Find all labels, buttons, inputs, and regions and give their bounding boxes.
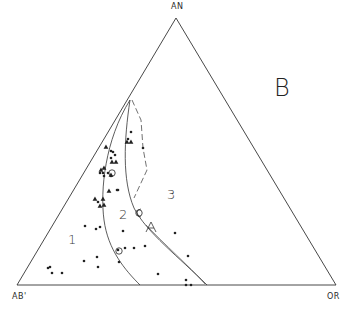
boundary-glyphs — [137, 209, 156, 232]
data-point-dot — [185, 284, 188, 287]
data-point-dot — [133, 247, 136, 250]
data-point-dot — [187, 255, 190, 258]
vertex-label-or: OR — [327, 293, 340, 301]
data-triangles — [93, 139, 134, 207]
field-label-3: 3 — [167, 188, 175, 201]
data-point-dot — [61, 272, 64, 275]
data-point-dot — [96, 256, 99, 259]
data-point-dot — [99, 226, 102, 229]
data-point-dot — [97, 201, 100, 204]
data-point-dot — [142, 147, 145, 150]
field-label-2: 2 — [119, 208, 127, 221]
data-point-dot — [190, 284, 193, 287]
data-point-dot — [130, 131, 133, 134]
data-point-triangle — [102, 202, 107, 206]
data-point-dot — [84, 225, 87, 228]
data-point-dot — [124, 247, 127, 250]
triangle-frame — [17, 18, 336, 285]
data-point-dot — [99, 172, 102, 175]
data-point-triangle — [114, 159, 119, 163]
data-point-open-circle — [116, 248, 122, 254]
ternary-diagram — [0, 0, 343, 311]
vertex-label-ab: AB' — [12, 293, 27, 301]
data-point-triangle — [93, 196, 98, 200]
data-point-dot — [144, 245, 147, 248]
data-point-dot — [103, 175, 106, 178]
data-point-dot — [118, 261, 121, 264]
data-point-dot — [83, 260, 86, 263]
data-point-dot — [97, 266, 100, 269]
data-point-dot — [112, 151, 115, 154]
field-boundaries — [103, 100, 207, 285]
data-point-triangle — [98, 203, 103, 207]
data-point-dot — [51, 272, 54, 275]
data-point-dot — [95, 228, 98, 231]
data-point-dot — [117, 249, 120, 252]
data-point-triangle — [101, 196, 106, 200]
field-label-1: 1 — [68, 233, 76, 246]
data-point-triangle — [110, 159, 115, 163]
data-point-dot — [114, 154, 117, 157]
data-point-triangle — [104, 144, 109, 148]
data-point-dot — [116, 189, 119, 192]
vertex-label-an: AN — [171, 3, 183, 11]
data-point-triangle — [107, 188, 112, 192]
data-point-dot — [185, 279, 188, 282]
data-point-dot — [102, 172, 105, 175]
data-point-dot — [157, 273, 160, 276]
data-point-dot — [122, 230, 125, 233]
data-point-triangle — [129, 139, 134, 143]
data-point-dot — [49, 266, 52, 269]
panel-label: B — [274, 76, 290, 100]
data-point-dot — [110, 157, 113, 160]
data-point-dot — [174, 232, 177, 235]
